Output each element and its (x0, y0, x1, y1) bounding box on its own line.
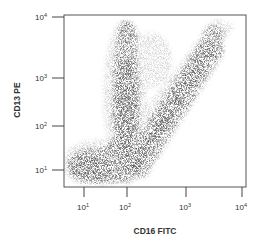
svg-text:101: 101 (35, 165, 47, 175)
y-axis (52, 17, 64, 170)
svg-text:104: 104 (35, 12, 47, 22)
y-axis-title: CD13 PE (12, 82, 22, 118)
x-tick-labels: 101 102 103 104 (77, 202, 247, 212)
x-axis-title: CD16 FITC (134, 226, 177, 236)
svg-text:104: 104 (235, 202, 247, 212)
data-points (62, 18, 235, 187)
flow-cytometry-plot: 104 103 102 101 101 102 103 104 CD16 FIT… (0, 0, 261, 245)
svg-text:101: 101 (77, 202, 89, 212)
svg-text:103: 103 (179, 202, 191, 212)
svg-text:102: 102 (119, 202, 131, 212)
x-axis (84, 187, 242, 197)
svg-text:103: 103 (35, 73, 47, 83)
y-tick-labels: 104 103 102 101 (35, 12, 47, 175)
svg-text:102: 102 (35, 121, 47, 131)
